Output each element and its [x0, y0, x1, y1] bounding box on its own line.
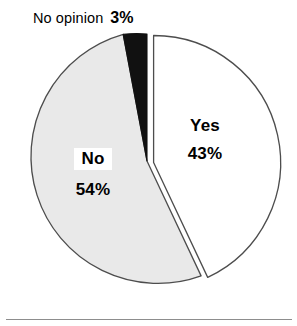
- pie-label-no-value: 54%: [55, 181, 131, 198]
- pie-label-no-opinion-name: No opinion: [33, 10, 103, 26]
- pie-chart-svg: [0, 0, 297, 326]
- pie-chart-figure: No opinion3% Yes 43% No 54%: [0, 0, 297, 326]
- pie-label-yes-name: Yes: [168, 117, 242, 134]
- pie-label-yes-value: 43%: [168, 145, 242, 162]
- pie-label-no-name: No: [74, 148, 111, 170]
- pie-label-no-opinion: No opinion3%: [33, 10, 133, 26]
- footer-divider: [6, 319, 292, 320]
- pie-label-no: No 54%: [55, 148, 131, 198]
- pie-label-no-opinion-value: 3%: [110, 9, 133, 26]
- pie-label-yes: Yes 43%: [168, 117, 242, 162]
